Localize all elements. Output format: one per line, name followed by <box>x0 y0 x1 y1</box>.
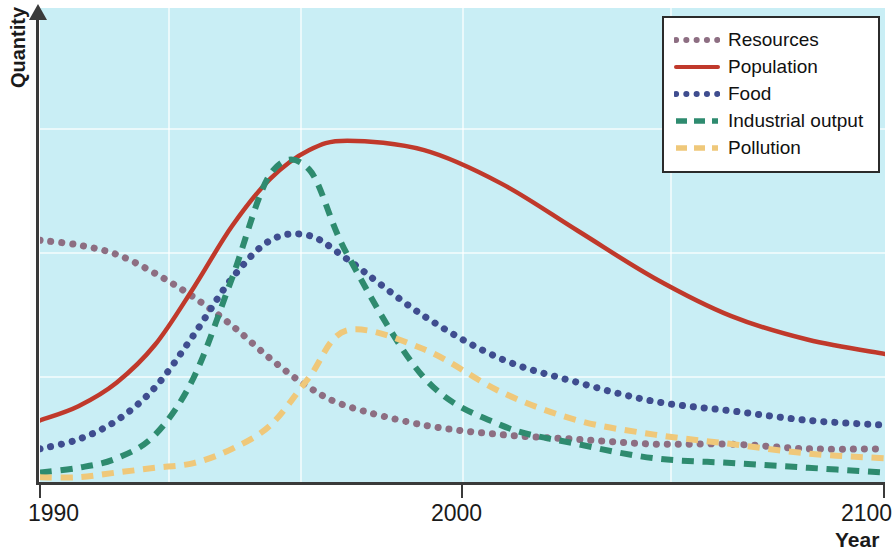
legend-item-industrial-output: Industrial output <box>674 107 868 134</box>
legend-swatch-resources <box>674 33 720 47</box>
series-line-industrial-output <box>40 160 885 473</box>
x-axis-tick-label-1990: 1990 <box>28 500 79 527</box>
legend-label-pollution: Pollution <box>728 138 801 158</box>
y-axis-arrow-icon <box>29 4 47 20</box>
x-axis-title: Year <box>835 528 879 552</box>
legend-item-pollution: Pollution <box>674 134 868 161</box>
x-axis-tick <box>883 485 885 498</box>
series-line-pollution <box>40 329 885 477</box>
legend-item-resources: Resources <box>674 26 868 53</box>
legend-swatch-food <box>674 87 720 101</box>
y-axis-title: Quantity <box>7 0 30 96</box>
legend-swatch-industrial-output <box>674 114 720 128</box>
legend-label-population: Population <box>728 57 818 77</box>
x-axis-tick-label-2100: 2100 <box>841 500 892 527</box>
legend: Resources Population Food Industrial out… <box>662 16 880 173</box>
legend-label-industrial-output: Industrial output <box>728 111 863 131</box>
x-axis-tick-label-2000: 2000 <box>431 500 482 527</box>
legend-swatch-population <box>674 60 720 74</box>
legend-label-resources: Resources <box>728 30 819 50</box>
legend-label-food: Food <box>728 84 771 104</box>
x-axis-tick <box>39 485 41 498</box>
legend-item-food: Food <box>674 80 868 107</box>
legend-swatch-pollution <box>674 141 720 155</box>
legend-item-population: Population <box>674 53 868 80</box>
chart-root: 1990 2000 2100 Year Quantity Resources P… <box>0 0 892 558</box>
y-axis-line <box>36 18 39 484</box>
x-axis-tick <box>461 485 463 498</box>
